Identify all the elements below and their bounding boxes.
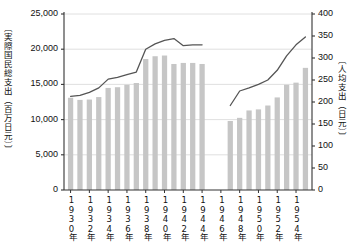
y-tick-label-right: 200 xyxy=(318,96,333,106)
x-tick-label: 1936年 xyxy=(122,195,134,242)
bar xyxy=(77,100,82,190)
bar xyxy=(124,85,129,190)
x-tick-label: 1948年 xyxy=(235,195,247,242)
bar xyxy=(303,68,308,190)
bar xyxy=(106,88,111,190)
bar xyxy=(237,118,242,190)
chart-figure: 〔実際国民総支出（百万日元）〕 〔人均支出（日元）〕 05,00010,0001… xyxy=(0,0,360,250)
x-tick-label: 1952年 xyxy=(272,195,284,242)
bar xyxy=(162,56,167,190)
y-tick-label-right: 50 xyxy=(318,162,328,172)
bar xyxy=(275,97,280,190)
x-tick-label: 1932年 xyxy=(84,195,96,242)
x-tick-label: 1930年 xyxy=(66,195,78,242)
x-tick-label: 1934年 xyxy=(103,195,115,242)
y-tick-label-right: 100 xyxy=(318,140,333,150)
bar xyxy=(190,63,195,190)
y-tick-label-left: 5,000 xyxy=(35,149,58,159)
bar xyxy=(152,56,157,190)
bar xyxy=(96,97,101,190)
bar xyxy=(68,98,73,190)
bar xyxy=(265,106,270,190)
bar xyxy=(171,64,176,190)
x-tick-label: 1940年 xyxy=(160,195,172,242)
x-tick-label: 1944年 xyxy=(197,195,209,242)
y-tick-label-right: 350 xyxy=(318,30,333,40)
bar xyxy=(256,109,261,190)
y-tick-label-right: 150 xyxy=(318,118,333,128)
y-tick-label-left: 15,000 xyxy=(30,78,58,88)
bar xyxy=(143,59,148,190)
bar xyxy=(199,64,204,190)
bar xyxy=(293,83,298,190)
x-tick-label: 1954年 xyxy=(291,195,303,242)
y-tick-label-left: 10,000 xyxy=(30,114,58,124)
bar xyxy=(87,100,92,190)
bar xyxy=(181,63,186,190)
y-tick-label-left: 0 xyxy=(53,184,58,194)
bar xyxy=(228,121,233,190)
y-tick-label-right: 300 xyxy=(318,52,333,62)
y-tick-label-right: 0 xyxy=(318,184,323,194)
y-tick-label-right: 250 xyxy=(318,74,333,84)
x-tick-label: 1938年 xyxy=(141,195,153,242)
bar xyxy=(115,87,120,190)
bar xyxy=(246,110,251,190)
y-tick-label-right: 400 xyxy=(318,8,333,18)
x-tick-label: 1942年 xyxy=(178,195,190,242)
x-tick-label: 1950年 xyxy=(253,195,265,242)
bar xyxy=(284,85,289,190)
bar xyxy=(134,83,139,190)
y-tick-label-left: 25,000 xyxy=(30,8,58,18)
x-tick-label: 1946年 xyxy=(216,195,228,242)
y-tick-label-left: 20,000 xyxy=(30,43,58,53)
